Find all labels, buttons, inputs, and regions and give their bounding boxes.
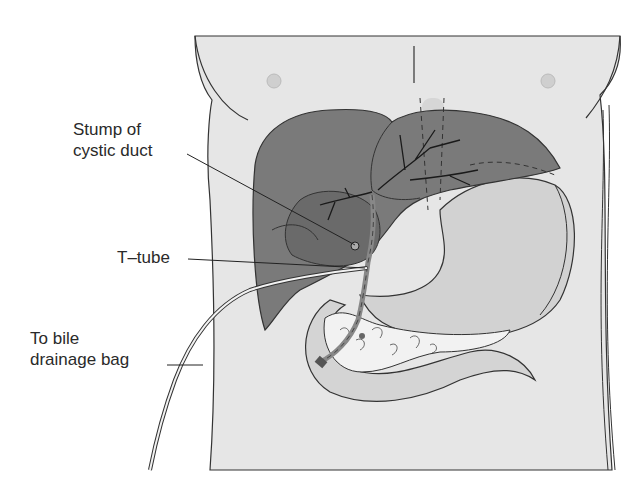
label-bile-drainage: To bile drainage bag: [30, 328, 129, 370]
label-t-tube: T–tube: [117, 247, 170, 268]
anatomy-illustration: [0, 0, 643, 494]
liver-lobe: [285, 191, 380, 266]
diagram-canvas: Stump of cystic duct T–tube To bile drai…: [0, 0, 643, 494]
label-cystic-duct-stump: Stump of cystic duct: [73, 119, 152, 161]
